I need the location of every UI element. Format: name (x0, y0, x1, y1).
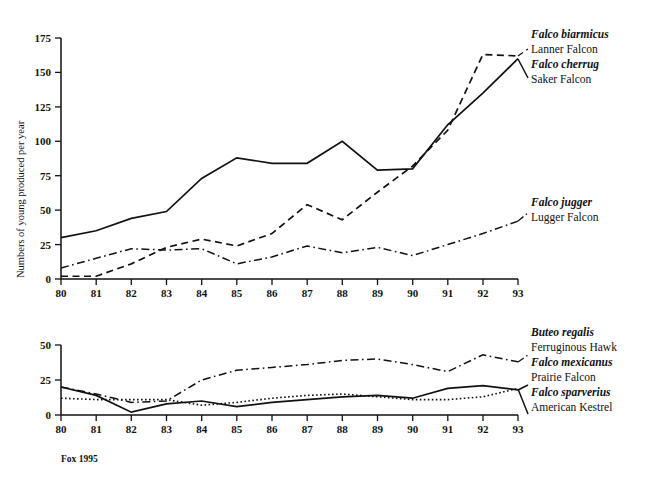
top-chart-x-ticks (61, 279, 518, 285)
top-chart-xtick-80: 80 (56, 287, 68, 299)
legend-com-prairie-falcon: Prairie Falcon (531, 371, 596, 383)
top-chart-legend: Falco biarmicus Lanner Falcon Falco cher… (530, 28, 609, 224)
bottom-chart-ytick-50: 50 (40, 339, 52, 351)
top-chart-ytick-25: 25 (40, 239, 52, 251)
legend-com-saker-falcon: Saker Falcon (531, 73, 592, 85)
series-line-lanner-falcon (61, 55, 518, 277)
top-chart-ytick-100: 100 (35, 135, 52, 147)
leader-line-ferruginous-hawk (518, 355, 528, 362)
leader-line-lugger (518, 213, 528, 221)
leader-line-lanner (518, 49, 528, 56)
bottom-chart-xtick-83: 83 (161, 423, 173, 435)
bottom-chart-xtick-91: 91 (442, 423, 453, 435)
top-chart-xtick-82: 82 (126, 287, 138, 299)
bottom-chart-x-ticks (61, 415, 518, 421)
top-chart-xtick-93: 93 (513, 287, 525, 299)
top-chart-xtick-85: 85 (231, 287, 243, 299)
top-chart-xtick-89: 89 (372, 287, 384, 299)
raptor-productivity-figure: Numbers of young produced per year 175 1… (0, 0, 648, 484)
bottom-chart-xtick-87: 87 (302, 423, 314, 435)
bottom-chart-xtick-93: 93 (513, 423, 525, 435)
top-chart-xtick-81: 81 (91, 287, 102, 299)
top-chart-ytick-0: 0 (46, 273, 52, 285)
top-chart-ytick-50: 50 (40, 204, 52, 216)
bottom-chart-y-ticks (55, 345, 61, 415)
top-chart-xtick-90: 90 (407, 287, 419, 299)
bottom-chart-xtick-89: 89 (372, 423, 384, 435)
series-line-saker-falcon (61, 59, 518, 238)
top-chart-ytick-125: 125 (35, 101, 52, 113)
series-line-ferruginous-hawk (61, 355, 518, 403)
top-chart-xtick-91: 91 (442, 287, 453, 299)
bottom-chart-xtick-86: 86 (267, 423, 279, 435)
legend-sci-falco-mexicanus: Falco mexicanus (530, 356, 613, 368)
top-chart-y-ticks (55, 38, 61, 279)
bottom-chart-xtick-82: 82 (126, 423, 138, 435)
leader-line-saker (518, 59, 528, 78)
top-chart-xtick-92: 92 (478, 287, 490, 299)
top-chart-xtick-88: 88 (337, 287, 349, 299)
bottom-chart-ytick-0: 0 (46, 409, 52, 421)
top-chart-xtick-86: 86 (267, 287, 279, 299)
legend-com-lugger-falcon: Lugger Falcon (531, 211, 599, 224)
legend-sci-falco-jugger: Falco jugger (530, 196, 593, 209)
legend-sci-falco-sparverius: Falco sparverius (530, 386, 611, 399)
bottom-chart: 50 25 0 80 81 82 83 (40, 339, 528, 435)
top-chart-ytick-75: 75 (40, 170, 52, 182)
leader-line-prairie-falcon (518, 385, 528, 390)
legend-com-ferruginous-hawk: Ferruginous Hawk (531, 341, 617, 354)
legend-sci-falco-biarmicus: Falco biarmicus (530, 28, 609, 40)
top-chart-xtick-84: 84 (196, 287, 208, 299)
top-chart-y-axis-title: Numbers of young produced per year (15, 120, 26, 278)
leader-line-american-kestrel (518, 389, 528, 414)
bottom-chart-xtick-84: 84 (196, 423, 208, 435)
legend-sci-buteo-regalis: Buteo regalis (530, 326, 594, 339)
bottom-chart-xtick-90: 90 (407, 423, 419, 435)
legend-com-lanner-falcon: Lanner Falcon (531, 43, 598, 55)
legend-sci-falco-cherrug: Falco cherrug (530, 58, 599, 71)
bottom-chart-xtick-92: 92 (478, 423, 490, 435)
bottom-chart-xtick-85: 85 (231, 423, 243, 435)
source-citation: Fox 1995 (61, 454, 98, 464)
top-chart-ytick-150: 150 (35, 66, 52, 78)
bottom-chart-legend: Buteo regalis Ferruginous Hawk Falco mex… (530, 326, 617, 413)
bottom-chart-xtick-81: 81 (91, 423, 102, 435)
series-line-lugger-falcon (61, 221, 518, 268)
top-chart-xtick-87: 87 (302, 287, 314, 299)
bottom-chart-xtick-80: 80 (56, 423, 68, 435)
top-chart-ytick-175: 175 (35, 32, 52, 44)
bottom-chart-ytick-25: 25 (40, 374, 52, 386)
bottom-chart-xtick-88: 88 (337, 423, 349, 435)
top-chart-xtick-83: 83 (161, 287, 173, 299)
top-chart: Numbers of young produced per year 175 1… (15, 32, 528, 299)
legend-com-american-kestrel: American Kestrel (531, 401, 612, 413)
